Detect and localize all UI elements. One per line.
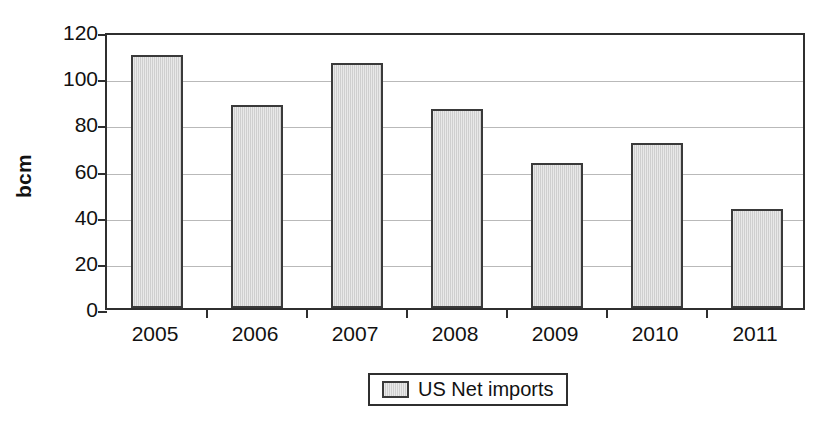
- bar-2010: [631, 143, 683, 308]
- bar-2009: [531, 163, 583, 308]
- x-axis-tick-label: 2010: [632, 322, 679, 346]
- x-axis-tick-label: 2008: [432, 322, 479, 346]
- y-axis-tick: [98, 126, 107, 128]
- y-axis-title: bcm: [6, 131, 42, 221]
- plot-area: [105, 33, 805, 310]
- x-axis-tick: [206, 308, 208, 318]
- y-axis-tick-label: 100: [42, 67, 98, 91]
- y-axis-tick: [98, 219, 107, 221]
- y-axis-tick-label: 80: [42, 113, 98, 137]
- y-axis-tick: [98, 311, 107, 313]
- chart-legend: US Net imports: [368, 373, 568, 406]
- legend-swatch-us-net-imports: [382, 381, 409, 398]
- y-axis-tick: [98, 173, 107, 175]
- bar-chart: bcm 020406080100120 20052006200720082009…: [0, 0, 823, 433]
- bar-2005: [131, 55, 183, 308]
- x-axis-tick: [406, 308, 408, 318]
- gridline: [107, 81, 803, 82]
- y-axis-tick-label: 120: [42, 21, 98, 45]
- y-axis-title-label: bcm: [12, 154, 36, 198]
- x-axis-tick-label: 2006: [232, 322, 279, 346]
- x-axis-tick-label: 2005: [132, 322, 179, 346]
- y-axis-tick: [98, 265, 107, 267]
- bar-2011: [731, 209, 783, 308]
- y-axis-tick-label: 40: [42, 206, 98, 230]
- y-axis-tick-labels: 020406080100120: [38, 0, 98, 433]
- x-axis-tick-label: 2007: [332, 322, 379, 346]
- y-axis-tick-label: 0: [42, 298, 98, 322]
- bar-2006: [231, 105, 283, 308]
- x-axis-tick-labels: 2005200620072008200920102011: [105, 322, 805, 356]
- x-axis-tick: [606, 308, 608, 318]
- y-axis-tick: [98, 34, 107, 36]
- x-axis-tick: [706, 308, 708, 318]
- y-axis-tick: [98, 80, 107, 82]
- legend-label: US Net imports: [418, 378, 554, 401]
- y-axis-tick-label: 20: [42, 252, 98, 276]
- bar-2007: [331, 63, 383, 308]
- x-axis-tick-label: 2009: [532, 322, 579, 346]
- bar-2008: [431, 109, 483, 308]
- x-axis-tick-label: 2011: [732, 322, 777, 346]
- y-axis-tick-label: 60: [42, 160, 98, 184]
- x-axis-tick: [506, 308, 508, 318]
- x-axis-tick: [306, 308, 308, 318]
